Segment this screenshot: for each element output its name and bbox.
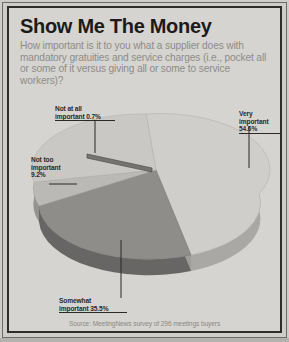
label-somewhat-line2: important 35.5% — [59, 305, 127, 314]
pie-chart-plot: Not at all important 0.7% Very important… — [9, 8, 282, 333]
label-notatall-line1: Not at all — [55, 105, 115, 113]
label-very-line2: important — [239, 118, 282, 126]
label-somewhat-important: Somewhat important 35.5% — [59, 297, 127, 313]
label-nottoo-line2: important — [31, 164, 83, 172]
label-somewhat-line1: Somewhat — [59, 297, 127, 305]
frame-bottom-shadow — [0, 338, 289, 342]
label-very-line1: Very — [239, 110, 282, 118]
label-notatall-line2: important 0.7% — [55, 113, 115, 122]
label-nottoo-line1: Not too — [31, 156, 83, 164]
chart-panel: Show Me The Money How important is it to… — [7, 6, 282, 333]
chart-source: Source: MeetingNews survey of 296 meetin… — [9, 320, 280, 327]
label-nottoo-line3: 9.2% — [31, 171, 83, 179]
label-very-important: Very important 54.6% — [239, 110, 282, 134]
chart-figure: Show Me The Money How important is it to… — [0, 0, 289, 342]
label-very-line3: 54.6% — [239, 125, 282, 134]
label-not-at-all-important: Not at all important 0.7% — [55, 105, 115, 121]
label-not-too-important: Not too important 9.2% — [31, 156, 83, 179]
